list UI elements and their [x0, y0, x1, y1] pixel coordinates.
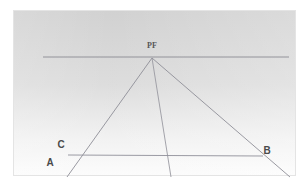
figure-root: PF C A B	[0, 0, 308, 187]
point-a-label: A	[46, 157, 53, 168]
diagram-panel: PF C A B	[0, 0, 308, 187]
perspective-diagram-svg: PF C A B	[0, 0, 308, 187]
point-b-label: B	[263, 145, 270, 156]
point-c-label: C	[57, 139, 64, 150]
vanishing-point-label: PF	[147, 41, 157, 50]
panel-sheen	[13, 10, 296, 176]
